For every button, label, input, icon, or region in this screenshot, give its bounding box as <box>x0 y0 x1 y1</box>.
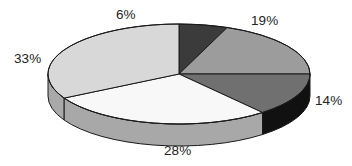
pie-chart-figure: 6% 19% 14% 28% 33% <box>0 0 352 166</box>
pie-label-33: 33% <box>14 52 41 66</box>
pie-label-14: 14% <box>315 94 342 108</box>
pie-label-6: 6% <box>116 8 136 22</box>
pie-label-28: 28% <box>164 144 191 158</box>
pie-top-faces <box>48 24 310 124</box>
pie-chart-graphic <box>0 0 352 166</box>
pie-label-19: 19% <box>251 14 278 28</box>
